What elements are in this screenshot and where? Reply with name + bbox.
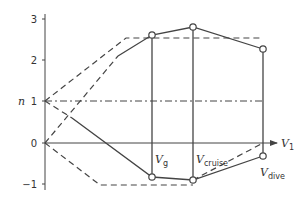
vcruise-label: Vcruise xyxy=(196,153,228,168)
y-tick-label: 0 xyxy=(31,138,37,149)
gust-line-upper-dashed xyxy=(45,56,118,143)
y-tick-label: 1 xyxy=(31,96,37,107)
y-tick-label: −1 xyxy=(22,179,37,190)
vg-label: Vg xyxy=(155,153,168,168)
gust-envelope-lower xyxy=(72,118,263,180)
y-tick-label: 2 xyxy=(31,55,37,66)
upper-maneuver-limit xyxy=(45,38,263,101)
vdive-label: Vdive xyxy=(260,166,285,181)
y-tick-label: 3 xyxy=(31,14,37,25)
x-axis-label: V1 xyxy=(281,137,294,152)
y-axis-label: n xyxy=(18,95,25,108)
gust-envelope-upper xyxy=(118,27,263,56)
vn-diagram: 3 2 1 0 −1 n V1 Vg Vcruise Vdive xyxy=(0,0,307,204)
